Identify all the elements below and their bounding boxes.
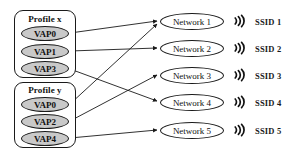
- ssid-label: SSID 3: [255, 71, 281, 81]
- vap-node[interactable]: VAP3: [21, 61, 69, 76]
- ssid-label: SSID 4: [255, 98, 281, 108]
- ssid-label: SSID 5: [255, 126, 281, 136]
- connection-line: [70, 75, 157, 121]
- profile-title: Profile x: [14, 14, 76, 24]
- network-node[interactable]: Network 4: [160, 94, 224, 111]
- wifi-icon: [231, 67, 247, 83]
- vap-node[interactable]: VAP0: [21, 97, 69, 112]
- ssid-label: SSID 2: [255, 44, 281, 54]
- network-node[interactable]: Network 3: [160, 67, 224, 84]
- vap-node[interactable]: VAP2: [21, 114, 69, 129]
- vap-node[interactable]: VAP0: [21, 26, 69, 41]
- network-node[interactable]: Network 1: [160, 13, 224, 30]
- connection-line: [70, 48, 157, 51]
- wifi-icon: [231, 13, 247, 29]
- network-node[interactable]: Network 2: [160, 40, 224, 57]
- ssid-label: SSID 1: [255, 17, 281, 27]
- connection-line: [70, 130, 157, 138]
- wifi-icon: [231, 94, 247, 110]
- profile-title: Profile y: [14, 85, 76, 95]
- wifi-icon: [231, 40, 247, 56]
- wifi-icon: [231, 122, 247, 138]
- vap-node[interactable]: VAP1: [21, 44, 69, 59]
- network-node[interactable]: Network 5: [160, 122, 224, 139]
- diagram-canvas: Profile xVAP0VAP1VAP3Profile yVAP0VAP2VA…: [0, 0, 289, 154]
- connection-line: [70, 21, 157, 33]
- connection-line: [70, 69, 157, 101]
- connection-line: [70, 24, 157, 104]
- vap-node[interactable]: VAP4: [21, 131, 69, 146]
